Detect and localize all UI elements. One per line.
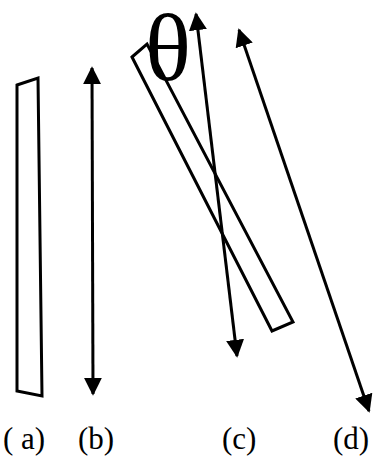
panel-a-label: ( a) (3, 423, 45, 454)
panel-c-double-arrow (196, 14, 237, 356)
panel-b-double-arrow (92, 68, 93, 394)
panel-c-label: (c) (222, 423, 256, 454)
panel-d-label: (d) (333, 423, 369, 454)
theta-symbol: θ (145, 0, 191, 96)
panel-a-rectangle (17, 78, 42, 396)
panel-b-label: (b) (78, 423, 114, 454)
panel-d-double-arrow (239, 30, 369, 411)
